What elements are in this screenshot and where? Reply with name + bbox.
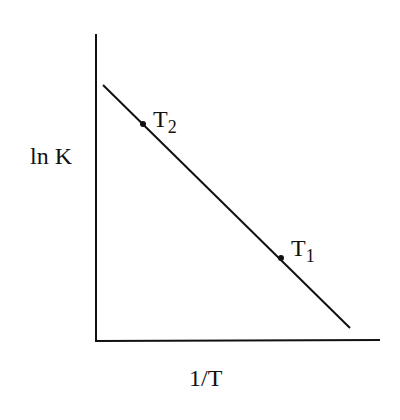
trend-line (103, 85, 350, 328)
point-t1 (278, 255, 284, 261)
point-t2 (140, 121, 146, 127)
diagram-canvas: ln K T2 T1 1/T (0, 0, 400, 420)
t1-label-main: T (291, 235, 306, 261)
y-axis-label: ln K (30, 143, 73, 169)
x-axis (95, 340, 380, 341)
t1-label: T1 (291, 235, 315, 266)
t1-label-sub: 1 (306, 246, 315, 266)
t2-label-sub: 2 (168, 117, 177, 137)
t2-label: T2 (153, 106, 177, 137)
x-axis-label: 1/T (189, 365, 223, 391)
t2-label-main: T (153, 106, 168, 132)
